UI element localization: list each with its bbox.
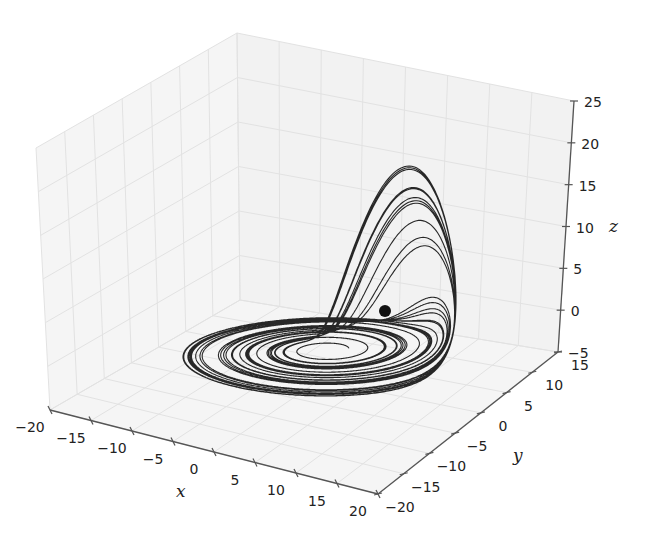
x-axis-label: x	[176, 481, 186, 501]
x-tick-label: 5	[231, 472, 240, 488]
x-tick-label: 0	[190, 461, 199, 477]
x-tick-label: −5	[143, 451, 164, 467]
rossler-3d-plot: −20−15−10−505101520 −20−15−10−5051015 −5…	[0, 0, 649, 544]
z-tick-label: −5	[568, 345, 589, 361]
z-axis-label: z	[608, 216, 619, 236]
x-tick-label: 15	[308, 493, 326, 509]
z-tick-label: 10	[576, 220, 594, 236]
y-tick-label: 5	[524, 398, 533, 414]
x-tick-label: 20	[349, 503, 367, 519]
y-tick-label: −20	[385, 499, 415, 515]
y-tick-label: −15	[411, 479, 441, 495]
x-tick-label: −15	[56, 430, 86, 446]
x-tick-label: 10	[267, 482, 285, 498]
y-tick-label: −10	[437, 458, 467, 474]
x-tick-label: −10	[97, 440, 127, 456]
x-tick-label: −20	[15, 419, 45, 435]
z-tick-label: 15	[579, 178, 597, 194]
z-tick-label: 20	[581, 136, 599, 152]
y-axis-label: y	[512, 445, 523, 465]
y-tick-label: 0	[498, 418, 507, 434]
start-point-marker	[379, 305, 391, 317]
z-tick-label: 25	[584, 94, 602, 110]
y-tick-label: −5	[467, 438, 488, 454]
z-tick-label: 0	[571, 303, 580, 319]
y-tick-label: 10	[545, 377, 563, 393]
z-tick-label: 5	[573, 261, 582, 277]
